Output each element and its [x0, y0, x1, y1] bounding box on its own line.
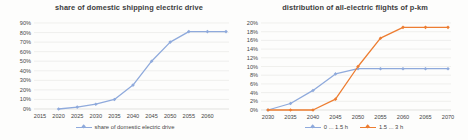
x-axis-tick-labels: 203020352040204520502055206020652070 [262, 114, 454, 120]
svg-text:2045: 2045 [145, 113, 157, 119]
svg-text:18%: 18% [247, 29, 258, 35]
svg-text:50%: 50% [20, 58, 31, 64]
y-axis-tick-labels: 0%10%20%30%40%50%60%70%80%90% [20, 20, 31, 112]
svg-text:60%: 60% [20, 49, 31, 55]
charts-figure: share of domestic shipping electric driv… [0, 0, 468, 140]
svg-text:2040: 2040 [127, 113, 139, 119]
series-0 [266, 67, 450, 112]
legend-line-marker-swatch [305, 125, 321, 130]
y-axis-tick-labels: 0%2%4%6%8%10%12%14%16%18%20% [247, 20, 258, 113]
svg-text:12%: 12% [247, 55, 258, 61]
legend-item: share of domestic electric drive [76, 124, 175, 130]
svg-text:2055: 2055 [374, 114, 386, 120]
svg-text:10%: 10% [247, 64, 258, 70]
chart-legend: share of domestic electric drive [0, 121, 234, 133]
legend-label: 0 ... 1.5 h [324, 124, 348, 130]
svg-text:0%: 0% [250, 107, 258, 113]
data-point-marker [289, 108, 293, 112]
svg-text:2050: 2050 [164, 113, 176, 119]
svg-text:8%: 8% [250, 72, 258, 78]
data-point-marker [57, 107, 61, 111]
data-point-marker [424, 26, 428, 30]
svg-text:2065: 2065 [419, 114, 431, 120]
svg-text:16%: 16% [247, 37, 258, 43]
legend-label: 1.5 ... 3 h [379, 124, 403, 130]
legend-item: 1.5 ... 3 h [360, 124, 403, 130]
data-point-marker [266, 108, 270, 112]
svg-text:10%: 10% [20, 96, 31, 102]
chart-all-electric-flights: distribution of all-electric flights of … [234, 0, 468, 140]
svg-text:2060: 2060 [201, 113, 213, 119]
svg-text:2055: 2055 [183, 113, 195, 119]
legend-label: share of domestic electric drive [95, 124, 175, 130]
data-point-marker [94, 102, 98, 106]
svg-text:0%: 0% [23, 106, 31, 112]
data-point-marker [401, 67, 405, 71]
data-point-marker [446, 26, 450, 30]
svg-text:20%: 20% [20, 87, 31, 93]
svg-text:2060: 2060 [397, 114, 409, 120]
chart-legend: 0 ... 1.5 h 1.5 ... 3 h [234, 121, 468, 133]
x-axis-tick-labels: 2015202020252030203520402045205020552060 [34, 113, 214, 119]
data-point-marker [446, 67, 450, 71]
data-point-marker [75, 105, 79, 109]
legend-item: 0 ... 1.5 h [305, 124, 348, 130]
svg-text:6%: 6% [250, 81, 258, 87]
svg-text:20%: 20% [247, 20, 258, 26]
svg-text:2020: 2020 [52, 113, 64, 119]
svg-text:30%: 30% [20, 77, 31, 83]
gridlines [34, 23, 229, 109]
chart-plot: 0%2%4%6%8%10%12%14%16%18%20%203020352040… [234, 0, 468, 140]
svg-text:2035: 2035 [108, 113, 120, 119]
svg-text:2025: 2025 [71, 113, 83, 119]
svg-text:2050: 2050 [352, 114, 364, 120]
data-point-marker [424, 67, 428, 71]
svg-text:2070: 2070 [442, 114, 454, 120]
svg-text:2035: 2035 [284, 114, 296, 120]
svg-text:90%: 90% [20, 20, 31, 26]
svg-text:80%: 80% [20, 30, 31, 36]
svg-text:2%: 2% [250, 98, 258, 104]
gridlines [261, 23, 451, 110]
svg-text:2030: 2030 [90, 113, 102, 119]
svg-text:2015: 2015 [34, 113, 46, 119]
svg-text:2040: 2040 [307, 114, 319, 120]
chart-domestic-shipping-electric-drive: share of domestic shipping electric driv… [0, 0, 234, 140]
data-point-marker [379, 67, 383, 71]
svg-text:2045: 2045 [329, 114, 341, 120]
svg-text:2030: 2030 [262, 114, 274, 120]
svg-text:14%: 14% [247, 46, 258, 52]
chart-plot: 0%10%20%30%40%50%60%70%80%90%20152020202… [0, 0, 234, 140]
legend-line-marker-swatch [360, 125, 376, 130]
svg-text:70%: 70% [20, 39, 31, 45]
svg-text:4%: 4% [250, 90, 258, 96]
legend-line-marker-swatch [76, 125, 92, 130]
svg-text:40%: 40% [20, 68, 31, 74]
